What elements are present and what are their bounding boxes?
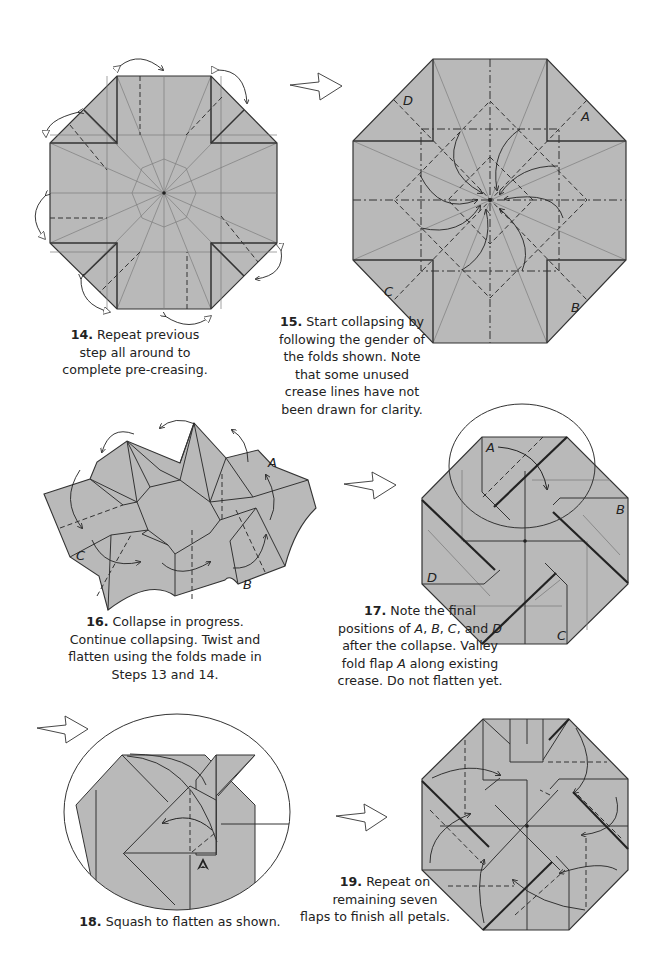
step-14-caption: 14. Repeat previous step all around to c… <box>30 326 240 379</box>
label-c: C <box>76 548 86 563</box>
next-step-arrow <box>344 472 396 499</box>
step-number: 18. <box>79 914 101 929</box>
diagram-canvas: D A C B <box>0 0 664 957</box>
caption-line: been drawn for clarity. <box>263 401 441 419</box>
label-a: A <box>267 455 277 470</box>
step-18-caption: 18. Squash to flatten as shown. <box>60 913 300 931</box>
caption-line: Collapse in progress. <box>112 614 243 629</box>
caption-line: Start collapsing by <box>306 314 424 329</box>
caption-line: Repeat previous <box>97 327 199 342</box>
label-c: C <box>557 628 567 643</box>
step-number: 15. <box>280 314 302 329</box>
step-16-diagram: A B C <box>44 420 316 610</box>
caption-line: the folds shown. Note <box>263 348 441 366</box>
caption-line: flaps to finish all petals. <box>290 908 460 926</box>
label-b: B <box>616 502 625 517</box>
step-number: 14. <box>71 327 93 342</box>
next-step-arrow <box>37 716 88 743</box>
step-number: 16. <box>86 614 108 629</box>
label-a: A <box>485 440 495 455</box>
label-b: B <box>243 577 252 592</box>
step-18-diagram <box>37 714 300 920</box>
caption-line: fold flap A along existing <box>325 655 515 673</box>
caption-line: crease. Do not flatten yet. <box>325 672 515 690</box>
caption-line: Steps 13 and 14. <box>20 666 310 684</box>
diagram-page: D A C B <box>0 0 664 957</box>
label-b: B <box>571 300 580 315</box>
step-15-diagram: D A C B <box>353 59 626 343</box>
caption-line: positions of A, B, C, and D <box>325 620 515 638</box>
step-15-caption: 15. Start collapsing by following the ge… <box>263 313 441 418</box>
step-17-caption: 17. Note the final positions of A, B, C,… <box>325 602 515 690</box>
next-step-arrow <box>336 804 387 831</box>
label-d: D <box>427 570 437 585</box>
next-step-arrow <box>290 73 342 100</box>
caption-line: step all around to <box>30 344 240 362</box>
caption-line: following the gender of <box>263 331 441 349</box>
caption-line: that some unused <box>263 366 441 384</box>
collapsing-paper <box>44 423 316 610</box>
step-16-caption: 16. Collapse in progress. Continue colla… <box>20 613 310 683</box>
step-number: 17. <box>364 603 386 618</box>
label-d: D <box>403 93 413 108</box>
caption-line: crease lines have not <box>263 383 441 401</box>
step-14-diagram <box>35 59 281 325</box>
caption-line: remaining seven <box>310 891 460 909</box>
label-c: C <box>384 284 394 299</box>
caption-line: complete pre-creasing. <box>30 361 240 379</box>
caption-line: flatten using the folds made in <box>20 648 310 666</box>
caption-line: Squash to flatten as shown. <box>106 914 281 929</box>
caption-line: Repeat on <box>366 874 430 889</box>
caption-line: Note the final <box>390 603 476 618</box>
label-a: A <box>580 109 590 124</box>
caption-line: Continue collapsing. Twist and <box>20 631 310 649</box>
step-19-caption: 19. Repeat on remaining seven flaps to f… <box>310 873 460 926</box>
caption-line: after the collapse. Valley <box>325 637 515 655</box>
step-number: 19. <box>340 874 362 889</box>
